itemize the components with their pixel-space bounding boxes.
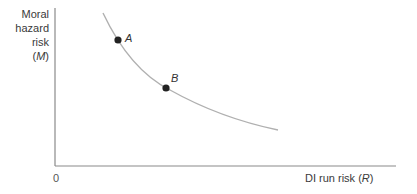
chart-plot [0, 0, 417, 194]
point-a-marker [114, 36, 121, 43]
x-label-close: ) [370, 172, 374, 184]
point-b-marker [162, 84, 169, 91]
x-label-text: DI run risk ( [305, 172, 362, 184]
tradeoff-curve [103, 13, 278, 130]
point-a-label: A [125, 32, 132, 44]
point-b-label: B [171, 72, 178, 84]
origin-label: 0 [53, 172, 59, 184]
x-axis-label: DI run risk (R) [305, 172, 373, 184]
x-label-var: R [362, 172, 370, 184]
